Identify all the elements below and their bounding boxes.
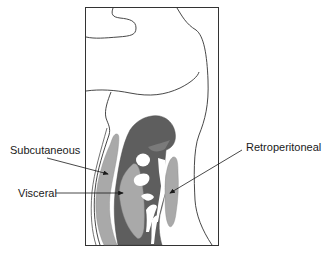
abdominal-fat-diagram bbox=[0, 0, 322, 254]
visceral-label: Visceral bbox=[18, 187, 57, 200]
bowel-loop-1 bbox=[136, 154, 150, 167]
subcutaneous-label: Subcutaneous bbox=[10, 144, 80, 157]
retroperitoneal-label: Retroperitoneal bbox=[246, 141, 321, 154]
